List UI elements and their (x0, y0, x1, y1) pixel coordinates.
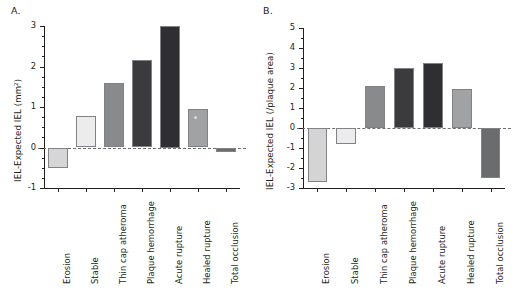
x-tick (114, 188, 115, 192)
y-tick-label: 4 (273, 42, 295, 52)
x-tick (375, 188, 376, 192)
x-tick (226, 188, 227, 192)
x-axis-label: Erosion (321, 253, 331, 284)
y-tick-minor (301, 58, 304, 59)
y-tick-label: -2 (273, 162, 295, 172)
bar (76, 116, 95, 148)
y-tick-major (40, 26, 44, 27)
y-tick-major (299, 108, 303, 109)
y-tick-major (299, 188, 303, 189)
y-tick-minor (42, 46, 45, 47)
y-tick-major (299, 128, 303, 129)
x-axis-label: Total occlusion (230, 222, 240, 284)
bar (423, 63, 443, 128)
y-tick-minor (301, 138, 304, 139)
bar (481, 128, 501, 178)
bar (48, 148, 67, 168)
bar (216, 148, 235, 152)
bar-marker-dot-icon (194, 116, 197, 119)
y-tick-label: -1 (273, 142, 295, 152)
y-tick-minor (42, 127, 45, 128)
y-tick-major (299, 168, 303, 169)
y-tick-minor (42, 158, 45, 159)
x-axis-label: Thin cap atheroma (379, 204, 389, 284)
x-tick (142, 188, 143, 192)
x-axis-label: Plaque hemorrhage (146, 201, 156, 284)
x-axis-label: Healed rupture (202, 220, 212, 284)
figure-container: A. IEL-Expected IEL (mm²) -10123 Erosion… (0, 0, 523, 302)
panel-a: A. IEL-Expected IEL (mm²) -10123 Erosion… (0, 0, 255, 302)
y-tick-label: 1 (14, 101, 36, 111)
bar (132, 60, 151, 147)
panel-b-bars (303, 28, 505, 188)
bar (452, 89, 472, 128)
y-tick-minor (42, 178, 45, 179)
bar (336, 128, 356, 144)
y-tick-minor (42, 168, 45, 169)
bar (365, 86, 385, 128)
bar (188, 109, 207, 147)
y-tick-minor (301, 118, 304, 119)
y-tick-major (299, 148, 303, 149)
y-tick-major (40, 107, 44, 108)
x-axis-label: Thin cap atheroma (118, 204, 128, 284)
y-tick-minor (301, 98, 304, 99)
y-tick-minor (42, 87, 45, 88)
y-tick-minor (301, 78, 304, 79)
x-axis-label: Healed rupture (466, 220, 476, 284)
x-axis-label: Acute rupture (437, 226, 447, 284)
y-tick-minor (42, 97, 45, 98)
bar (394, 68, 414, 128)
x-tick (170, 188, 171, 192)
x-axis-label: Stable (350, 257, 360, 284)
x-axis-label: Stable (90, 257, 100, 284)
x-axis-label: Total occlusion (495, 222, 505, 284)
panel-a-y-axis-title: IEL-Expected IEL (mm²) (13, 79, 23, 182)
y-tick-major (40, 188, 44, 189)
y-tick-minor (42, 77, 45, 78)
panel-b-letter: B. (263, 5, 273, 16)
x-tick (346, 188, 347, 192)
y-tick-minor (301, 178, 304, 179)
y-tick-major (299, 68, 303, 69)
y-tick-label: 0 (273, 122, 295, 132)
panel-a-plot-area: -10123 (44, 26, 240, 188)
y-tick-label: -3 (273, 182, 295, 192)
bar (104, 83, 123, 148)
x-axis-label: Erosion (62, 253, 72, 284)
x-tick (86, 188, 87, 192)
y-tick-label: -1 (14, 182, 36, 192)
x-tick (404, 188, 405, 192)
y-tick-label: 2 (14, 61, 36, 71)
y-tick-label: 1 (273, 102, 295, 112)
y-tick-minor (42, 36, 45, 37)
x-tick (491, 188, 492, 192)
x-tick (198, 188, 199, 192)
x-axis-label: Plaque hemorrhage (408, 201, 418, 284)
y-tick-minor (42, 137, 45, 138)
panel-b: B. IEL-Expected IEL (/plaque area) -3-2-… (255, 0, 523, 302)
y-tick-major (40, 67, 44, 68)
x-tick (462, 188, 463, 192)
x-axis-label: Acute rupture (174, 226, 184, 284)
x-tick (433, 188, 434, 192)
y-tick-label: 3 (273, 62, 295, 72)
y-tick-minor (42, 56, 45, 57)
panel-a-bars (44, 26, 240, 188)
y-tick-minor (301, 158, 304, 159)
y-tick-major (299, 48, 303, 49)
x-tick (317, 188, 318, 192)
y-tick-major (299, 88, 303, 89)
y-tick-minor (301, 38, 304, 39)
bar (308, 128, 328, 182)
y-tick-label: 0 (14, 142, 36, 152)
y-tick-major (299, 28, 303, 29)
x-tick (58, 188, 59, 192)
panel-a-letter: A. (11, 5, 21, 16)
y-tick-label: 2 (273, 82, 295, 92)
panel-b-plot-area: -3-2-1012345 (303, 28, 505, 188)
bar (160, 26, 179, 148)
y-tick-label: 5 (273, 22, 295, 32)
y-tick-major (40, 148, 44, 149)
y-tick-minor (42, 117, 45, 118)
